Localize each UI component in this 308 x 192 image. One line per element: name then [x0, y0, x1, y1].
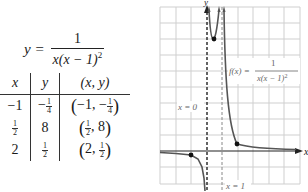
x-axis-arrow-icon: [295, 148, 303, 154]
y-axis-label: y: [203, 0, 208, 7]
point-2: [235, 142, 240, 147]
function-label-den: x(x − 1)2: [256, 73, 287, 83]
asymptote-label-x1: x = 1: [225, 181, 245, 191]
grid: [160, 7, 300, 184]
asymptote-label-x0: x = 0: [177, 102, 198, 112]
function-graph: x y x = 0 x = 1 f(x) = 1 x(x − 1)2: [0, 0, 308, 191]
x-axis-label: x: [303, 146, 308, 157]
function-label-num: 1: [271, 58, 276, 68]
curve-middle-branch: [209, 10, 219, 39]
point-neg1: [189, 153, 194, 158]
point-half: [212, 37, 217, 42]
function-label-lhs: f(x) =: [229, 66, 250, 76]
curve-left-branch: [160, 153, 205, 192]
